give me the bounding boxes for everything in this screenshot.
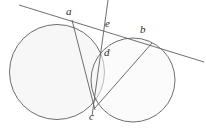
left-circle [10, 25, 105, 120]
point-label-b: b [140, 24, 146, 35]
point-label-d: d [104, 47, 110, 58]
geometry-canvas [0, 0, 206, 130]
geometry-figure: a b c d e [0, 0, 206, 130]
point-label-a: a [66, 6, 72, 17]
point-label-c: c [89, 111, 94, 122]
point-label-e: e [105, 18, 110, 29]
